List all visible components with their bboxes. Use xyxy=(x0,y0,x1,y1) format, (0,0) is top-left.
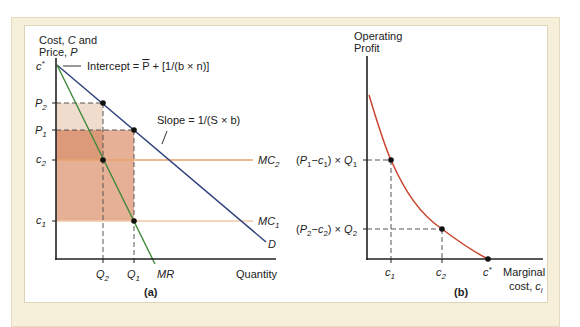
x-axis-label-b-line2: cost, ci xyxy=(509,280,543,295)
demand-label: D xyxy=(268,238,276,250)
tick-label-c2: c2 xyxy=(36,153,47,168)
y-axis-label-b-line2: Profit xyxy=(354,42,380,54)
chart-b: Operating Profit (P1−c1) × Q1 (P2−c2) × … xyxy=(296,30,545,298)
y-axis-label-b-line1: Operating xyxy=(354,30,402,42)
point-q2-c2 xyxy=(100,157,106,163)
tick-label-q1: Q1 xyxy=(127,268,140,283)
tick-label-profit2: (P2−c2) × Q2 xyxy=(296,223,358,238)
point-q1-p1 xyxy=(131,127,137,133)
mc1-label: MC1 xyxy=(258,215,280,230)
tick-label-c1-b: c1 xyxy=(385,266,395,281)
caption-b: (b) xyxy=(454,286,468,298)
slope-leader xyxy=(162,131,167,144)
operating-profit-curve xyxy=(369,95,488,259)
caption-a: (a) xyxy=(144,286,158,298)
tick-label-profit1: (P1−c1) × Q1 xyxy=(296,154,358,169)
point-cstar-zero xyxy=(485,256,491,262)
point-q2-p2 xyxy=(100,100,106,106)
mc2-label: MC2 xyxy=(258,154,280,169)
intercept-annotation: Intercept = P + [1/(b × n)] xyxy=(87,60,209,72)
y-axis-label-a-line1: Cost, C and xyxy=(39,34,97,46)
x-axis-label-b-line1: Marginal xyxy=(503,266,545,278)
x-axis-label-a: Quantity xyxy=(236,268,277,280)
tick-label-p1: P1 xyxy=(35,124,47,139)
tick-label-p2: P2 xyxy=(35,97,47,112)
point-c2-profit2 xyxy=(439,226,445,232)
chart-a: Cost, C and Price, P c* P2 P1 c2 c1 Inte… xyxy=(35,34,280,298)
point-c1-profit1 xyxy=(388,157,394,163)
tick-label-cstar-b: c* xyxy=(483,265,493,278)
slope-annotation: Slope = 1/(S × b) xyxy=(157,114,240,126)
point-q1-c1 xyxy=(131,218,137,224)
mr-label: MR xyxy=(157,268,174,280)
tick-label-cstar-a: c* xyxy=(36,59,46,72)
tick-label-c2-b: c2 xyxy=(436,266,447,281)
y-axis-label-a-line2: Price, P xyxy=(39,46,78,58)
tick-label-q2: Q2 xyxy=(96,268,110,283)
tick-label-c1: c1 xyxy=(36,214,46,229)
